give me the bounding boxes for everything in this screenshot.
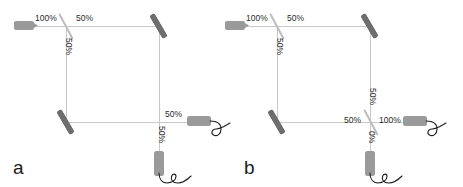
label-left-50: 50% <box>65 38 74 55</box>
label-out-bottom-0: 0% <box>368 131 377 143</box>
detector-right <box>403 116 427 126</box>
panel-a: 100% 50% 50% 50% 50% a <box>0 0 232 187</box>
panel-b-label: b <box>244 158 255 177</box>
label-out-bottom-50: 50% <box>158 126 167 143</box>
label-out-right-50: 50% <box>165 110 182 119</box>
detector-bottom <box>365 151 375 176</box>
laser-source <box>225 21 245 30</box>
beam-right-vertical <box>159 26 161 122</box>
beam-top-horizontal <box>66 26 159 28</box>
label-bottom-in-50: 50% <box>344 116 361 125</box>
beam-input-horizontal <box>33 26 66 28</box>
label-left-50: 50% <box>276 38 285 55</box>
interferometer-figure: 100% 50% 50% 50% 50% a <box>0 0 463 187</box>
beam-input-horizontal <box>244 26 277 28</box>
detector-bottom <box>154 151 164 176</box>
label-input-100: 100% <box>246 14 268 23</box>
beam-top-horizontal <box>277 26 370 28</box>
label-out-right-100: 100% <box>379 116 401 125</box>
detector-right-wire <box>209 115 233 143</box>
detector-right-wire <box>425 115 449 143</box>
detector-right <box>187 116 211 126</box>
label-top-50: 50% <box>287 14 304 23</box>
label-right-arm-50: 50% <box>369 88 378 105</box>
panel-b: 100% 50% 50% 50% 50% 100% 0% b <box>231 0 463 187</box>
beam-right-vertical <box>370 26 372 122</box>
label-input-100: 100% <box>35 14 57 23</box>
label-top-50: 50% <box>76 14 93 23</box>
beam-bottom-horizontal <box>66 122 159 124</box>
panel-a-label: a <box>13 158 24 177</box>
laser-source <box>14 21 34 30</box>
